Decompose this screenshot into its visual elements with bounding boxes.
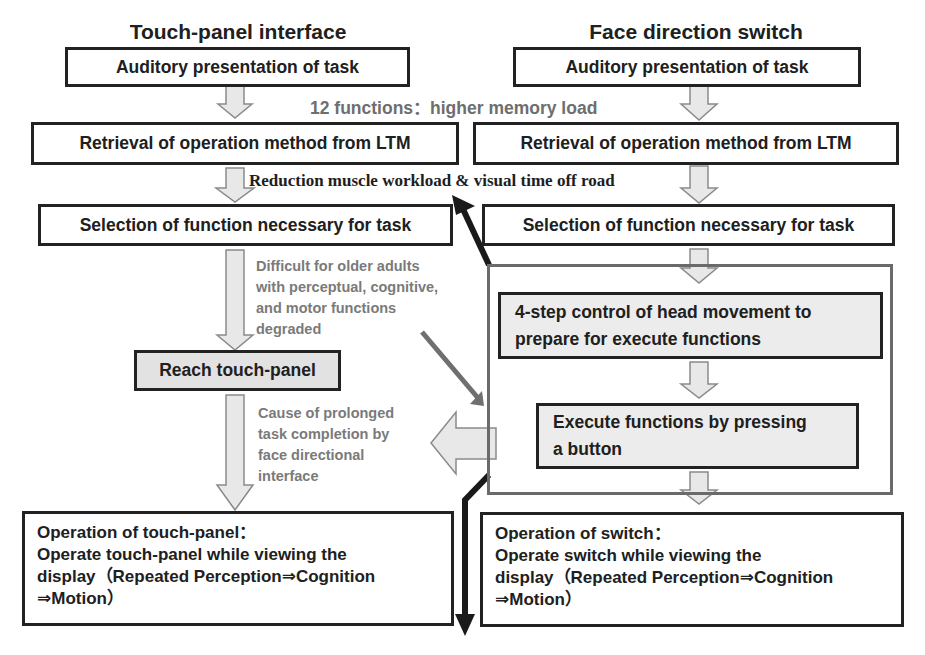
cause-line4: interface [258,466,394,487]
left-selection-box: Selection of function necessary for task [38,204,453,246]
left-retrieval-label: Retrieval of operation method from LTM [79,133,410,154]
cause-line3: face directional [258,445,394,466]
head-control-line2: prepare for execute functions [515,326,812,353]
difficult-line2: with perceptual, cognitive, [256,277,438,298]
right-retrieval-box: Retrieval of operation method from LTM [473,122,899,165]
execute-line1: Execute functions by pressing [553,409,807,436]
right-selection-label: Selection of function necessary for task [523,215,855,236]
execute-functions-box: Execute functions by pressing a button [536,403,859,469]
left-retrieval-box: Retrieval of operation method from LTM [31,122,459,165]
difficult-line3: and motor functions [256,298,438,319]
difficult-line1: Difficult for older adults [256,256,438,277]
right-operation-line3: ⇒Motion） [495,589,889,611]
head-control-line1: 4-step control of head movement to [515,299,812,326]
touch-panel-title: Touch-panel interface [108,20,368,44]
right-retrieval-label: Retrieval of operation method from LTM [520,133,851,154]
difficult-note: Difficult for older adults with perceptu… [256,256,438,340]
memory-load-note: 12 functions：higher memory load [310,98,597,119]
cause-line1: Cause of prolonged [258,403,394,424]
left-operation-heading: Operation of touch-panel： [37,522,439,544]
right-operation-line2: display（Repeated Perception⇒Cognition [495,567,889,589]
cause-note: Cause of prolonged task completion by fa… [258,403,394,487]
left-selection-label: Selection of function necessary for task [80,215,412,236]
right-operation-box: Operation of switch： Operate switch whil… [480,512,904,627]
reach-touch-panel-label: Reach touch-panel [159,360,316,381]
left-auditory-label: Auditory presentation of task [116,57,359,78]
left-operation-box: Operation of touch-panel： Operate touch-… [22,511,454,626]
cause-line2: task completion by [258,424,394,445]
right-selection-box: Selection of function necessary for task [482,204,895,246]
right-operation-heading: Operation of switch： [495,523,889,545]
face-switch-title: Face direction switch [566,20,826,44]
execute-line2: a button [553,436,807,463]
head-control-box: 4-step control of head movement to prepa… [498,292,883,359]
left-operation-line1: Operate touch-panel while viewing the [37,544,439,566]
right-auditory-box: Auditory presentation of task [513,47,861,87]
flow-diagram: Touch-panel interface Face direction swi… [0,0,925,655]
left-auditory-box: Auditory presentation of task [65,47,410,87]
left-operation-line2: display（Repeated Perception⇒Cognition [37,566,439,588]
right-auditory-label: Auditory presentation of task [565,57,808,78]
left-operation-line3: ⇒Motion） [37,588,439,610]
gray-diagonal-arrow [422,332,478,398]
difficult-line4: degraded [256,319,438,340]
reach-touch-panel-box: Reach touch-panel [134,350,341,391]
right-operation-line1: Operate switch while viewing the [495,545,889,567]
reduction-note: Reduction muscle workload & visual time … [249,171,615,191]
